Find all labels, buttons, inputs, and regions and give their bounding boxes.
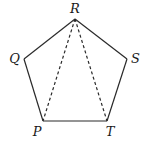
vertex-label-S: S [131, 51, 140, 66]
edge-PQ [24, 59, 43, 121]
diagonal-RP [43, 19, 75, 121]
vertex-label-T: T [106, 124, 116, 139]
pentagon-diagram: RSTPQ [0, 0, 147, 147]
vertex-label-R: R [69, 1, 80, 16]
pentagon-figure: RSTPQ [0, 0, 147, 147]
vertex-label-P: P [32, 124, 42, 139]
edge-QR [24, 19, 75, 59]
edge-ST [107, 59, 127, 121]
diagonal-RT [75, 19, 107, 121]
vertex-label-Q: Q [9, 51, 20, 66]
edge-RS [75, 19, 127, 59]
